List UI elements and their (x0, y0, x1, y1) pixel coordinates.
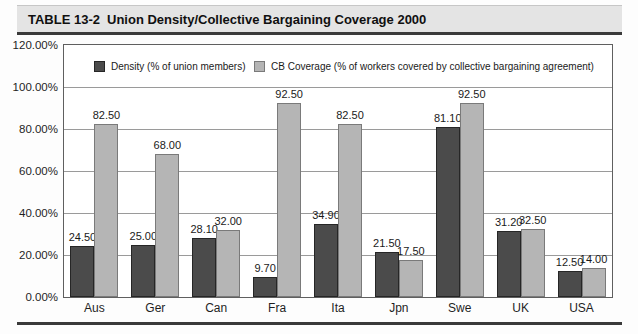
legend-item-density: Density (% of union members) (94, 61, 246, 72)
bar-usa-cb-coverage (582, 268, 606, 297)
legend-label: Density (% of union members) (111, 61, 246, 72)
x-tick-label-ita: Ita (308, 301, 368, 315)
table-title-band: TABLE 13-2 Union Density/Collective Barg… (17, 5, 622, 35)
bar-ger-cb-coverage (155, 154, 179, 297)
y-tick-label: 0.00% (0, 290, 58, 304)
y-tick-label: 20.00% (0, 248, 58, 262)
x-tick-label-jpn: Jpn (369, 301, 429, 315)
bar-jpn-density (375, 252, 399, 297)
figure-page: TABLE 13-2 Union Density/Collective Barg… (0, 0, 638, 334)
bar-aus-density (70, 246, 94, 297)
gridline (64, 87, 612, 88)
x-tick-label-swe: Swe (430, 301, 490, 315)
table-title-text: Union Density/Collective Bargaining Cove… (107, 12, 426, 27)
y-tick-label: 60.00% (0, 164, 58, 178)
x-tick-label-fra: Fra (247, 301, 307, 315)
y-tick-label: 100.00% (0, 80, 58, 94)
value-label: 92.50 (447, 88, 497, 101)
x-tick-label-aus: Aus (64, 301, 124, 315)
legend-swatch-icon (94, 61, 105, 72)
bar-swe-cb-coverage (460, 103, 484, 297)
bar-fra-density (253, 277, 277, 297)
bar-fra-cb-coverage (277, 103, 301, 297)
bottom-rule (17, 322, 622, 325)
legend-item-cb-coverage: CB Coverage (% of workers covered by col… (254, 61, 594, 72)
value-label: 32.50 (508, 214, 558, 227)
x-tick-label-can: Can (186, 301, 246, 315)
x-tick-label-usa: USA (552, 301, 612, 315)
x-tick-label-uk: UK (491, 301, 551, 315)
legend-swatch-icon (254, 61, 265, 72)
bar-ger-density (131, 245, 155, 298)
y-tick-label: 40.00% (0, 206, 58, 220)
value-label: 82.50 (325, 109, 375, 122)
bar-ita-cb-coverage (338, 124, 362, 297)
value-label: 17.50 (386, 245, 436, 258)
x-axis-tick-labels: AusGerCanFraItaJpnSweUKUSA (64, 301, 612, 317)
legend-label: CB Coverage (% of workers covered by col… (271, 61, 594, 72)
bar-swe-density (436, 127, 460, 297)
bar-jpn-cb-coverage (399, 260, 423, 297)
value-label: 68.00 (142, 139, 192, 152)
bar-uk-density (497, 231, 521, 297)
bar-aus-cb-coverage (94, 124, 118, 297)
value-label: 14.00 (569, 253, 619, 266)
bar-can-density (192, 238, 216, 297)
y-tick-label: 80.00% (0, 122, 58, 136)
plot-area: 24.5082.5025.0068.0028.1032.009.7092.503… (63, 44, 613, 298)
y-axis-tick-labels: 120.00%100.00%80.00%60.00%40.00%20.00%0.… (0, 45, 58, 297)
table-number-label: TABLE 13-2 (28, 12, 100, 27)
bar-can-cb-coverage (216, 230, 240, 297)
value-label: 82.50 (81, 109, 131, 122)
bar-uk-cb-coverage (521, 229, 545, 297)
value-label: 32.00 (203, 215, 253, 228)
bar-usa-density (558, 271, 582, 297)
value-label: 92.50 (264, 88, 314, 101)
y-tick-label: 120.00% (0, 38, 58, 52)
bar-ita-density (314, 224, 338, 297)
x-tick-label-ger: Ger (125, 301, 185, 315)
